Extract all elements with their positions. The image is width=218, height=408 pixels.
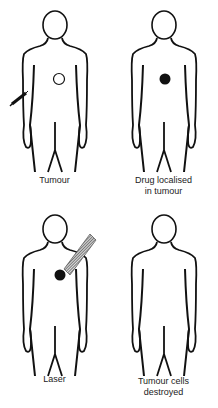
caption-line: destroyed [109, 387, 218, 398]
caption-destroyed: Tumour cells destroyed [109, 376, 218, 397]
caption-line: Laser [0, 374, 109, 385]
panel-drug-localised: Drug localised in tumour [109, 0, 218, 204]
syringe-icon [10, 91, 28, 106]
caption-line: Tumour cells [109, 376, 218, 387]
caption-laser: Laser [0, 374, 109, 385]
human-figure-icon [109, 0, 218, 204]
caption-tumour: Tumour [0, 175, 109, 186]
panel-tumour: Tumour [0, 0, 109, 204]
panel-destroyed: Tumour cells destroyed [109, 204, 218, 408]
caption-line: in tumour [109, 186, 218, 197]
human-figure-icon [0, 0, 109, 204]
drug-filled-circle-icon [160, 74, 171, 85]
caption-drug: Drug localised in tumour [109, 175, 218, 196]
caption-line: Tumour [0, 175, 109, 186]
panel-laser: Laser [0, 204, 109, 408]
laser-beam-icon [64, 234, 96, 275]
caption-line: Drug localised [109, 175, 218, 186]
tumour-circle-icon [54, 74, 65, 85]
tumour-filled-circle-icon [55, 270, 66, 281]
